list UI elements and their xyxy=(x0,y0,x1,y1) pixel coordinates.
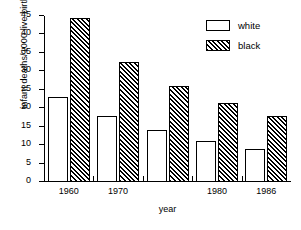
y-axis-line xyxy=(44,16,45,182)
y-tick-15: 15 xyxy=(39,126,44,127)
y-tick-0: 0 xyxy=(39,181,44,182)
y-tick-5: 5 xyxy=(39,163,44,164)
legend: white black xyxy=(206,17,260,57)
x-separator-2 xyxy=(143,176,144,182)
y-tick-label-35: 35 xyxy=(21,46,31,57)
y-tick-label-45: 45 xyxy=(21,9,31,20)
y-tick-10: 10 xyxy=(39,144,44,145)
legend-item-black: black xyxy=(206,37,260,53)
y-tick-label-20: 20 xyxy=(21,101,31,112)
legend-item-white: white xyxy=(206,17,260,33)
bar-black-0 xyxy=(70,18,90,182)
y-tick-label-40: 40 xyxy=(21,27,31,38)
y-tick-label-10: 10 xyxy=(21,138,31,149)
y-tick-40: 40 xyxy=(39,33,44,34)
x-tick-label-1970: 1970 xyxy=(108,186,128,197)
bar-white-0 xyxy=(48,97,68,182)
x-tick-label-1986: 1986 xyxy=(256,186,276,197)
y-tick-label-0: 0 xyxy=(26,175,31,186)
bar-black-1 xyxy=(119,62,139,182)
bar-white-2 xyxy=(147,130,167,182)
bar-black-2 xyxy=(169,86,189,182)
legend-label-white: white xyxy=(238,20,260,31)
x-separator-4 xyxy=(242,176,243,182)
y-tick-label-5: 5 xyxy=(26,157,31,168)
y-tick-20: 20 xyxy=(39,107,44,108)
y-tick-35: 35 xyxy=(39,52,44,53)
y-tick-label-30: 30 xyxy=(21,64,31,75)
white-box-swatch-icon xyxy=(206,20,230,31)
bar-black-3 xyxy=(218,103,238,182)
y-tick-25: 25 xyxy=(39,89,44,90)
bar-black-4 xyxy=(267,116,287,182)
y-tick-label-15: 15 xyxy=(21,120,31,131)
y-tick-label-25: 25 xyxy=(21,83,31,94)
bar-white-3 xyxy=(196,141,216,182)
legend-label-black: black xyxy=(238,40,260,51)
x-tick-label-1960: 1960 xyxy=(59,186,79,197)
x-axis-title: year xyxy=(44,204,291,215)
x-separator-1 xyxy=(93,176,94,182)
infant-mortality-bar-chart: infant deaths/1000 live births 051015202… xyxy=(0,0,301,230)
y-tick-30: 30 xyxy=(39,70,44,71)
y-tick-45: 45 xyxy=(39,15,44,16)
bar-white-1 xyxy=(97,116,117,182)
hatched-box-swatch-icon xyxy=(206,40,230,51)
bar-white-4 xyxy=(245,149,265,182)
x-separator-3 xyxy=(192,176,193,182)
x-tick-label-1980: 1980 xyxy=(207,186,227,197)
